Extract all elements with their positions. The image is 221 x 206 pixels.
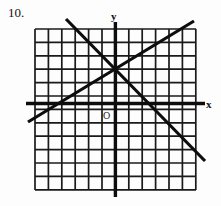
origin-label: O xyxy=(103,111,110,121)
y-axis-label: y xyxy=(111,11,117,22)
graph-figure: 10. xyxy=(0,0,221,206)
descending-line xyxy=(66,19,205,161)
x-axis-label: x xyxy=(206,99,212,110)
coordinate-plot xyxy=(0,0,221,206)
